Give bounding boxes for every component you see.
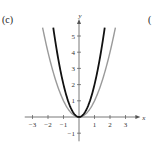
x-tick-label: 1 bbox=[93, 121, 97, 129]
x-axis-arrow bbox=[135, 115, 140, 119]
chart: −3−2−1123−112345xy bbox=[0, 0, 153, 144]
y-tick-label: −1 bbox=[68, 130, 76, 138]
x-axis-label: x bbox=[141, 114, 146, 122]
y-tick-label: 5 bbox=[72, 33, 76, 41]
y-axis-label: y bbox=[77, 12, 82, 20]
x-tick-label: 3 bbox=[124, 121, 128, 129]
y-tick-label: 2 bbox=[72, 81, 76, 89]
x-tick-label: −2 bbox=[44, 121, 52, 129]
x-tick-label: −3 bbox=[29, 121, 37, 129]
y-tick-label: 1 bbox=[72, 97, 76, 105]
x-tick-label: 2 bbox=[108, 121, 112, 129]
y-tick-label: 3 bbox=[72, 65, 76, 73]
y-tick-label: 4 bbox=[72, 49, 76, 57]
x-tick-label: −1 bbox=[60, 121, 68, 129]
